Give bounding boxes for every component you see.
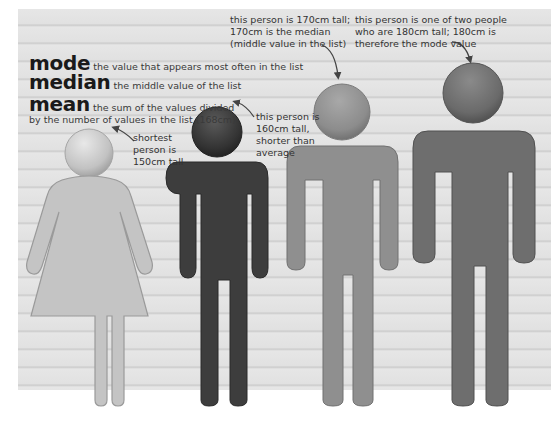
medium-man-annotation: this person is 170cm tall; 170cm is the … — [230, 14, 350, 50]
mean-description-line1: the sum of the values divided — [93, 102, 234, 113]
mean-term: mean — [29, 92, 90, 116]
dark-man-annotation: this person is 160cm tall, shorter than … — [256, 111, 320, 159]
arrow-dark-man — [236, 102, 254, 117]
arrow-woman — [115, 128, 134, 141]
median-definition: medianthe middle value of the list — [29, 70, 241, 94]
woman-figure-150cm — [27, 129, 153, 406]
tall-man-annotation: this person is one of two people who are… — [355, 14, 507, 50]
median-term: median — [29, 70, 111, 94]
mean-description-line2: by the number of values in the list (168… — [29, 114, 236, 125]
median-description: the middle value of the list — [114, 80, 242, 91]
tall-man-figure-180cm — [413, 63, 535, 406]
woman-annotation: shortest person is 150cm tall — [133, 132, 183, 168]
mean-definition: meanthe sum of the values divided by the… — [29, 92, 236, 125]
